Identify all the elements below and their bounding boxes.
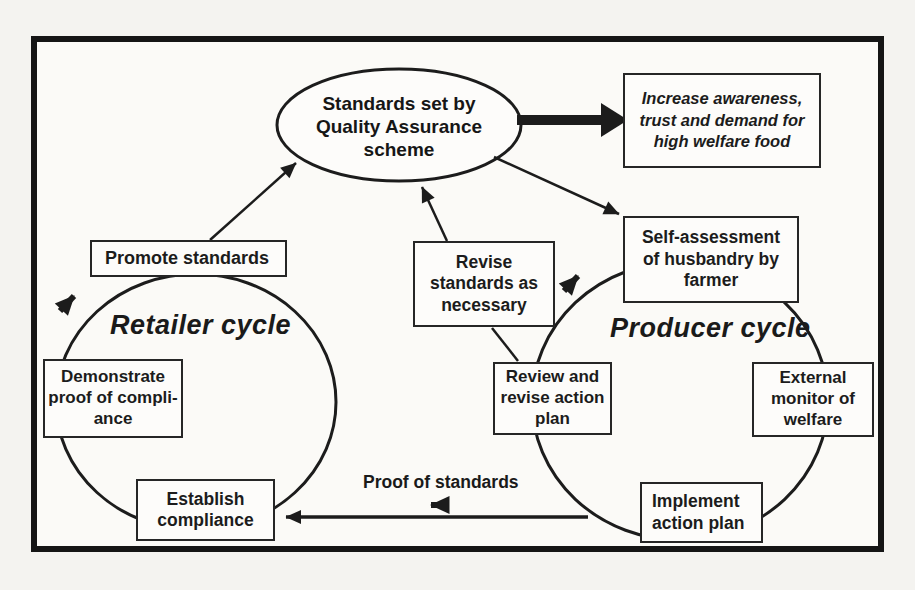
connector-revise-to-review xyxy=(492,328,518,361)
promote-standards-box: Promote standards xyxy=(90,240,287,277)
retailer-cycle-label: Retailer cycle xyxy=(110,310,291,341)
external-monitor-box: External monitor of welfare xyxy=(752,362,874,437)
increase-awareness-box: Increase awareness, trust and demand for… xyxy=(623,73,821,168)
proof-of-standards-label: Proof of standards xyxy=(363,472,519,493)
revise-standards-box: Revise standards as necessary xyxy=(413,241,555,327)
demonstrate-proof-box: Demonstrate proof of compli- ance xyxy=(43,359,183,438)
arrow-standards-to-self-assessment xyxy=(494,157,619,214)
producer-cycle-label: Producer cycle xyxy=(610,313,811,344)
establish-compliance-box: Establish compliance xyxy=(136,479,275,541)
review-revise-plan-box: Review and revise action plan xyxy=(493,362,612,435)
self-assessment-box: Self-assessment of husbandry by farmer xyxy=(623,216,799,303)
arrow-revise-to-standards xyxy=(422,187,447,241)
arrow-promote-to-standards xyxy=(210,163,296,240)
implement-plan-box: Implement action plan xyxy=(640,482,763,543)
flow-direction-arrow-producer-icon xyxy=(564,276,578,291)
standards-ellipse-label: Standards set by Quality Assurance schem… xyxy=(285,93,513,161)
figure-canvas: Standards set by Quality Assurance schem… xyxy=(0,0,915,590)
flow-direction-arrow-retailer-icon xyxy=(60,296,74,311)
